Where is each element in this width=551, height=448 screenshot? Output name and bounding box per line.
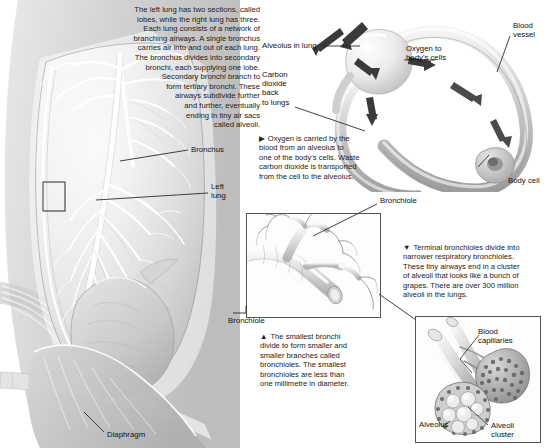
label-left-lung-line2: lung (211, 191, 251, 200)
intro-line: bronchi, each supplying one lobe. (118, 63, 260, 73)
label-oxygen-line1: Oxygen to (406, 44, 446, 53)
intro-line: The bronchus divides into secondary (118, 53, 260, 63)
label-alveoli-cluster: Alveoli cluster (491, 421, 514, 439)
label-capillaries-line2: capillaries (478, 336, 513, 345)
caption-line: The smallest bronchi (270, 332, 340, 341)
caption-line: alveoli in the lungs. (403, 290, 549, 299)
label-body-cell: Body cell (508, 176, 540, 185)
label-alveolus-in-lung: Alveolus in lung (262, 41, 317, 50)
label-carbon-dioxide-back: Carbon dioxide back to lungs (262, 70, 289, 107)
caption-line: grapes. There are over 300 million (403, 281, 549, 290)
caption-marker-down-icon: ▼ (403, 243, 410, 252)
label-blood-vessel-line1: Blood (513, 21, 535, 30)
label-alveoli-cluster-line2: cluster (491, 430, 514, 439)
caption-line: from the cell to the alveolus. (259, 172, 395, 181)
intro-line: lobes, while the right lung has three. (118, 15, 260, 25)
label-co2-line4: to lungs (262, 98, 289, 107)
label-diaphragm: Diaphragm (107, 430, 145, 439)
caption-line: These tiny airways end in a cluster (403, 262, 549, 271)
intro-line: Each lung consists of a network of (118, 24, 260, 34)
label-bronchiole-top: Bronchiole (380, 196, 417, 205)
intro-line: form tertiary bronchi. These (118, 82, 260, 92)
label-left-lung: Left lung (211, 182, 251, 200)
intro-line: airways subdivide further (118, 91, 260, 101)
caption-line: smaller branches called (260, 351, 392, 360)
label-bronchiole-bottom: Bronchiole (228, 316, 265, 325)
caption-marker-up-icon: ▲ (260, 332, 267, 341)
caption-line: bronchioles. The smallest (260, 360, 392, 369)
intro-line: Secondary bronchi branch to (118, 72, 260, 82)
label-alveolus: Alveolus (419, 420, 448, 429)
intro-line: carries air into and out of each lung. (118, 43, 260, 53)
intro-line: and further, eventually (118, 101, 260, 111)
caption-line: Oxygen is carried by the (268, 134, 350, 143)
label-blood-vessel: Blood vessel (513, 21, 535, 39)
caption-line: of alveoli that looks like a bunch of (403, 271, 549, 280)
caption-line: carbon dioxide is transported (259, 162, 395, 171)
bronchiole-caption: ▲ The smallest bronchi divide to form sm… (260, 332, 392, 388)
label-capillaries-line1: Blood (478, 327, 513, 336)
caption-line: blood from an alveolus to (259, 143, 395, 152)
label-co2-line2: dioxide (262, 79, 289, 88)
caption-line: Terminal bronchioles divide into (413, 243, 519, 252)
bronchiole-detail-box (246, 213, 381, 318)
gas-exchange-caption: ▶ Oxygen is carried by the blood from an… (259, 134, 395, 181)
caption-line: one of the body's cells. Waste (259, 153, 395, 162)
label-oxygen-line2: body's cells (406, 53, 446, 62)
intro-text-block: The left lung has two sections, called l… (118, 5, 260, 130)
label-oxygen-to-cells: Oxygen to body's cells (406, 44, 446, 62)
caption-line: narrower respiratory bronchioles. (403, 252, 549, 261)
label-left-lung-line1: Left (211, 182, 251, 191)
caption-line: bronchioles are less than (260, 370, 392, 379)
label-co2-line1: Carbon (262, 70, 289, 79)
caption-line: divide to form smaller and (260, 341, 392, 350)
alveoli-caption: ▼ Terminal bronchioles divide into narro… (403, 243, 549, 299)
caption-line: one millimetre in diameter. (260, 379, 392, 388)
intro-line: branching airways. A single bronchus (118, 34, 260, 44)
intro-line: called alveoli. (118, 120, 260, 130)
intro-line: The left lung has two sections, called (118, 5, 260, 15)
intro-line: ending in tiny air sacs (118, 111, 260, 121)
label-alveoli-cluster-line1: Alveoli (491, 421, 514, 430)
label-bronchus: Bronchus (191, 145, 224, 154)
label-co2-line3: back (262, 88, 289, 97)
label-blood-capillaries: Blood capillaries (478, 327, 513, 345)
caption-marker-right-icon: ▶ (259, 134, 265, 143)
label-blood-vessel-line2: vessel (513, 30, 535, 39)
bronchiole-svg (247, 214, 378, 315)
